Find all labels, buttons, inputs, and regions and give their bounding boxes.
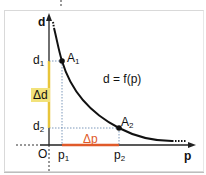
point-a2-label: A2 [121,116,133,130]
point-a1-label: A1 [67,52,79,66]
x-axis-label: p [184,150,191,162]
tick-d1: d1 [33,54,44,68]
point-a1 [59,58,65,64]
origin-label: O [38,148,47,160]
x-axis-arrow [188,142,196,148]
curve-dotted-start [53,22,54,28]
tick-d2: d2 [33,120,44,134]
tick-p1: p1 [58,149,69,163]
y-axis-arrow [46,13,52,21]
delta-d-label: Δd [31,88,50,102]
delta-p-label: Δp [83,133,98,145]
equation-label: d = f(p) [103,73,141,85]
y-axis-label: d [38,16,45,28]
tick-p2: p2 [114,149,125,163]
